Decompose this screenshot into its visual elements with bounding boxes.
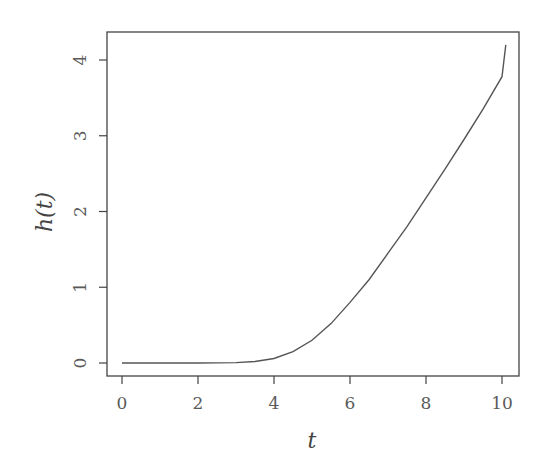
x-axis-label: t [308, 428, 317, 453]
y-axis: 01234 [70, 55, 107, 369]
y-tick-label: 1 [70, 282, 90, 293]
y-axis-label: h(t) [32, 192, 57, 232]
x-tick-label: 8 [421, 393, 432, 413]
y-tick-label: 0 [70, 358, 90, 369]
x-axis: 0246810 [117, 376, 513, 413]
y-tick-label: 3 [70, 130, 90, 141]
x-tick-label: 0 [117, 393, 128, 413]
y-tick-label: 4 [70, 55, 90, 66]
series-line-h [122, 45, 506, 363]
x-tick-label: 4 [269, 393, 280, 413]
x-tick-label: 10 [491, 393, 513, 413]
plot-frame [107, 32, 519, 376]
x-tick-label: 6 [345, 393, 356, 413]
x-tick-label: 2 [193, 393, 204, 413]
y-tick-label: 2 [70, 206, 90, 217]
chart: 0246810 01234 t h(t) [0, 0, 543, 465]
